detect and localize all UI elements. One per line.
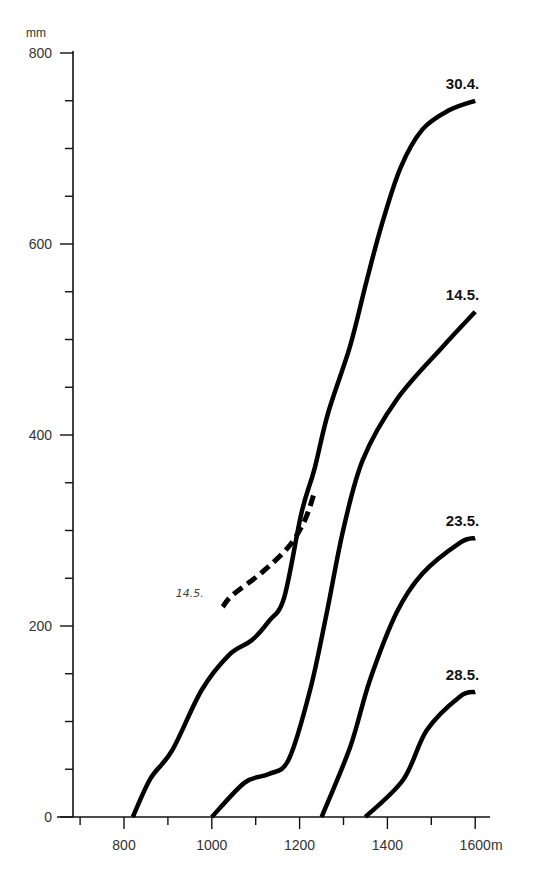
series-label-30-4: 30.4.	[446, 75, 479, 92]
x-tick-label: 800	[112, 837, 136, 853]
curves	[133, 101, 475, 817]
x-axis-unit-label: m	[491, 837, 503, 853]
x-tick-label: 1000	[196, 837, 227, 853]
series-line-28-5	[365, 692, 475, 817]
x-tick-label: 1600	[460, 837, 491, 853]
ticks	[60, 53, 475, 829]
series-label-14-5: 14.5.	[446, 286, 479, 303]
y-tick-label: 400	[29, 427, 53, 443]
series-label-14-5-dashed: 14.5.	[176, 587, 204, 600]
tick-labels: 02004006008008001000120014001600	[29, 45, 491, 853]
series-labels: 30.4.14.5.23.5.28.5.14.5.	[176, 75, 479, 683]
x-tick-label: 1400	[372, 837, 403, 853]
y-tick-label: 200	[29, 618, 53, 634]
y-tick-label: 0	[44, 809, 52, 825]
y-axis-unit-label: mm	[26, 26, 46, 40]
y-tick-label: 800	[29, 45, 53, 61]
y-tick-label: 600	[29, 236, 53, 252]
chart: 02004006008008001000120014001600 mm m 30…	[0, 0, 551, 869]
series-label-23-5: 23.5.	[446, 512, 479, 529]
series-label-28-5: 28.5.	[446, 666, 479, 683]
x-tick-label: 1200	[284, 837, 315, 853]
axes	[57, 51, 490, 817]
series-line-14-5	[212, 312, 475, 817]
